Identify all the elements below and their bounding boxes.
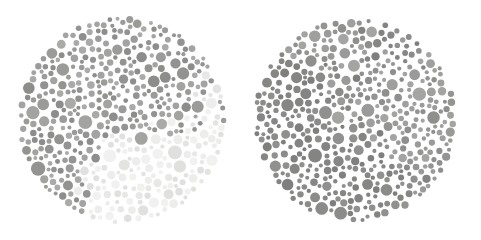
plate-dot: [349, 119, 353, 123]
plate-dot: [352, 49, 357, 54]
plate-dot: [167, 130, 173, 136]
plate-dot: [341, 76, 350, 85]
plate-dot: [98, 72, 105, 79]
plate-dot: [189, 45, 196, 52]
plate-dot: [379, 99, 385, 105]
plate-dot: [181, 52, 185, 56]
plate-dot: [85, 67, 91, 73]
plate-dot: [134, 85, 140, 91]
plate-dot: [141, 147, 147, 153]
plate-dot: [174, 111, 184, 121]
plate-dot: [310, 179, 318, 187]
plate-dot: [176, 51, 180, 55]
plate-dot: [332, 66, 338, 72]
plate-dot: [99, 61, 104, 66]
plate-dot: [402, 101, 409, 108]
plate-dot: [255, 125, 259, 129]
plate-dot: [129, 168, 133, 172]
plate-dot: [156, 161, 163, 168]
plate-dot: [186, 97, 191, 102]
plate-dot: [263, 142, 272, 151]
plate-dot: [92, 111, 100, 119]
plate-dot: [372, 149, 376, 153]
plate-dot: [371, 94, 377, 100]
plate-dot: [209, 125, 213, 129]
plate-dot: [20, 126, 26, 132]
plate-dot: [401, 201, 408, 208]
plate-dot: [160, 72, 171, 83]
plate-dot: [358, 133, 366, 141]
plate-dot: [170, 58, 180, 68]
plate-dot: [303, 76, 307, 80]
plate-dot: [183, 140, 189, 146]
plate-dot: [322, 182, 331, 191]
plate-dot: [403, 59, 407, 63]
plate-dot: [413, 87, 426, 100]
plate-dot: [90, 46, 96, 52]
plate-dot: [271, 86, 275, 90]
plate-dot: [368, 71, 372, 75]
plate-dot: [351, 157, 359, 165]
plate-dot: [321, 123, 328, 130]
plate-dot: [68, 191, 73, 196]
plate-dot: [290, 53, 296, 59]
plate-dot: [43, 91, 48, 96]
plate-dot: [370, 134, 377, 141]
plate-dot: [30, 130, 37, 137]
plate-dot: [87, 29, 93, 35]
plate-dot: [65, 151, 69, 155]
plate-dot: [281, 130, 290, 139]
plate-dot: [72, 47, 77, 52]
plate-dot: [425, 70, 429, 74]
plate-dot: [128, 24, 133, 29]
plate-dot: [19, 137, 24, 142]
plate-dot: [176, 93, 181, 98]
plate-dot: [368, 155, 375, 162]
plate-dot: [96, 97, 101, 102]
plate-dot: [32, 137, 38, 143]
plate-dot: [417, 149, 423, 155]
plate-dot: [104, 191, 111, 198]
plate-dot: [128, 63, 133, 68]
plate-dot: [438, 87, 446, 95]
plate-dot: [367, 200, 372, 205]
plate-dot: [149, 213, 154, 218]
plate-dot: [197, 69, 202, 74]
plate-dot: [145, 185, 151, 191]
plate-dot: [171, 77, 175, 81]
plate-dot: [162, 137, 167, 142]
plate-dot: [128, 147, 133, 152]
plate-dot: [58, 81, 66, 89]
plate-dot: [437, 80, 444, 87]
plate-dot: [302, 184, 308, 190]
plate-dot: [308, 71, 313, 76]
plate-dot: [119, 133, 125, 139]
plate-dot: [209, 78, 214, 83]
plate-dot: [76, 112, 80, 116]
plate-dot: [396, 184, 401, 189]
plate-dot: [173, 102, 180, 109]
plate-dot: [205, 169, 211, 175]
plate-dot: [358, 44, 364, 50]
plate-dot: [369, 168, 374, 173]
plate-dot: [192, 127, 197, 132]
plate-dot: [353, 30, 358, 35]
plate-dot: [432, 68, 437, 73]
plate-dot: [120, 59, 127, 66]
plate-dot: [96, 186, 101, 191]
plate-dot: [376, 119, 381, 124]
plate-dot: [31, 161, 45, 175]
plate-dot: [324, 154, 329, 159]
plate-dot: [96, 47, 101, 52]
plate-dot: [285, 173, 290, 178]
plate-dot: [330, 45, 337, 52]
plate-dot: [281, 171, 285, 175]
plate-dot: [401, 131, 405, 135]
plate-dot: [166, 106, 171, 111]
plate-dot: [420, 109, 425, 114]
plate-dot: [50, 179, 56, 185]
plate-dot: [369, 205, 376, 212]
plate-dot: [403, 121, 409, 127]
plate-dot: [32, 149, 38, 155]
plate-dot: [340, 106, 344, 110]
